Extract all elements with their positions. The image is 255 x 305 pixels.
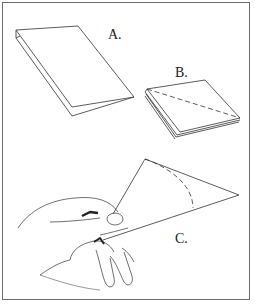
panel-c-cone <box>103 159 239 240</box>
panel-c-label: C. <box>175 232 188 246</box>
hand-drawing <box>18 198 134 290</box>
panel-a-label: A. <box>108 28 122 42</box>
folding-illustration <box>0 0 255 305</box>
panel-b-folded-square <box>145 80 240 139</box>
panel-b-label: B. <box>175 66 188 80</box>
